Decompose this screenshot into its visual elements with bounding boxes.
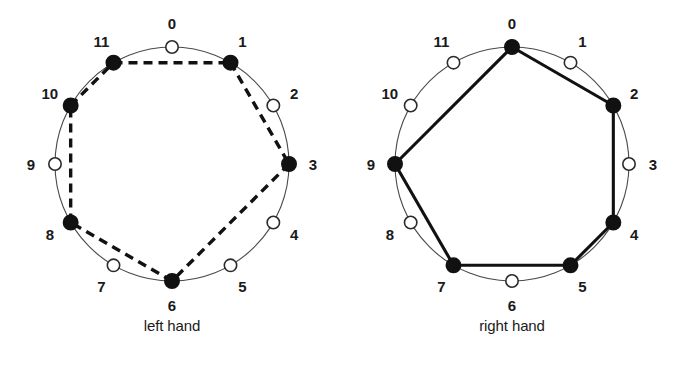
clock-panel-left-hand: 01234567891011 xyxy=(27,15,317,314)
node-right-hand-1-open xyxy=(564,56,576,68)
position-label-right-hand-2: 2 xyxy=(630,85,638,102)
node-left-hand-5-open xyxy=(224,259,236,271)
figure-canvas: 0123456789101101234567891011 left hand r… xyxy=(0,0,682,370)
node-right-hand-7-filled xyxy=(446,258,460,272)
node-right-hand-9-filled xyxy=(388,157,402,171)
clock-ring xyxy=(55,47,289,281)
position-label-left-hand-4: 4 xyxy=(290,226,299,243)
position-label-left-hand-7: 7 xyxy=(97,278,105,295)
polygon-edge-6-8 xyxy=(71,223,172,282)
node-left-hand-0-open xyxy=(166,41,178,53)
node-left-hand-1-filled xyxy=(223,55,237,69)
node-right-hand-0-filled xyxy=(505,40,519,54)
node-right-hand-6-open xyxy=(506,275,518,287)
position-label-right-hand-0: 0 xyxy=(508,15,516,32)
position-label-left-hand-6: 6 xyxy=(168,297,176,314)
position-label-left-hand-10: 10 xyxy=(42,85,59,102)
position-label-right-hand-3: 3 xyxy=(649,156,657,173)
node-left-hand-10-filled xyxy=(63,98,77,112)
node-right-hand-3-open xyxy=(623,158,635,170)
node-left-hand-6-filled xyxy=(165,274,179,288)
position-label-left-hand-1: 1 xyxy=(238,33,246,50)
node-left-hand-2-open xyxy=(267,99,279,111)
node-left-hand-8-filled xyxy=(63,215,77,229)
polygon-edge-0-2 xyxy=(512,47,613,106)
polygon-edge-4-5 xyxy=(571,223,614,266)
position-label-left-hand-2: 2 xyxy=(290,85,298,102)
clock-panel-right-hand: 01234567891011 xyxy=(367,15,657,314)
polygon-edge-10-11 xyxy=(71,63,114,106)
position-label-right-hand-8: 8 xyxy=(386,226,394,243)
caption-right-hand: right hand xyxy=(479,317,545,334)
polygon-edge-1-3 xyxy=(231,63,290,164)
node-left-hand-11-filled xyxy=(106,55,120,69)
node-right-hand-11-open xyxy=(447,56,459,68)
node-right-hand-5-filled xyxy=(563,258,577,272)
node-right-hand-2-filled xyxy=(606,98,620,112)
node-left-hand-9-open xyxy=(49,158,61,170)
position-label-right-hand-7: 7 xyxy=(437,278,445,295)
position-label-left-hand-8: 8 xyxy=(46,226,54,243)
position-label-right-hand-1: 1 xyxy=(578,33,586,50)
position-label-left-hand-3: 3 xyxy=(309,156,317,173)
polygon-edge-7-9 xyxy=(395,164,454,265)
position-label-right-hand-5: 5 xyxy=(578,278,586,295)
node-right-hand-8-open xyxy=(404,216,416,228)
position-label-left-hand-9: 9 xyxy=(27,156,35,173)
panels-group: 0123456789101101234567891011 xyxy=(27,15,657,314)
node-left-hand-7-open xyxy=(107,259,119,271)
position-label-right-hand-9: 9 xyxy=(367,156,375,173)
position-label-right-hand-10: 10 xyxy=(382,85,399,102)
position-label-left-hand-0: 0 xyxy=(168,15,176,32)
position-label-right-hand-11: 11 xyxy=(434,33,450,50)
node-right-hand-10-open xyxy=(404,99,416,111)
position-label-left-hand-11: 11 xyxy=(94,33,110,50)
position-label-left-hand-5: 5 xyxy=(238,278,246,295)
position-label-right-hand-4: 4 xyxy=(630,226,639,243)
node-left-hand-4-open xyxy=(267,216,279,228)
caption-left-hand: left hand xyxy=(144,317,201,334)
clock-diagrams-svg: 0123456789101101234567891011 xyxy=(0,0,682,370)
clock-ring xyxy=(395,47,629,281)
node-left-hand-3-filled xyxy=(282,157,296,171)
position-label-right-hand-6: 6 xyxy=(508,297,516,314)
node-right-hand-4-filled xyxy=(606,215,620,229)
